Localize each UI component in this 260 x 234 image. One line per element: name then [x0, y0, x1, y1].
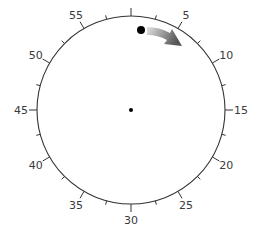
minor-tick [62, 41, 65, 44]
major-tick [80, 191, 84, 198]
minor-tick [62, 176, 65, 179]
major-tick [43, 157, 50, 161]
minute-label-55: 55 [69, 9, 83, 22]
minor-tick [106, 201, 107, 205]
minor-tick [222, 134, 226, 135]
minute-label-45: 45 [14, 104, 28, 117]
minor-tick [36, 134, 40, 135]
clock-dial-diagram: 510152025303540455055 [0, 0, 260, 234]
minute-label-5: 5 [183, 9, 190, 22]
minor-tick [106, 15, 107, 19]
minor-tick [222, 85, 226, 86]
minor-tick [36, 85, 40, 86]
minute-label-10: 10 [219, 49, 233, 62]
major-tick [178, 191, 182, 198]
minute-label-25: 25 [179, 199, 193, 212]
minute-label-30: 30 [124, 214, 138, 227]
minute-label-50: 50 [29, 49, 43, 62]
dial-labels: 510152025303540455055 [14, 9, 248, 227]
major-tick [43, 59, 50, 63]
minor-tick [197, 176, 200, 179]
minor-tick [155, 201, 156, 205]
minor-tick [197, 41, 200, 44]
major-tick [80, 22, 84, 29]
minute-label-35: 35 [69, 199, 83, 212]
center-dot [129, 108, 133, 112]
minute-label-40: 40 [29, 159, 43, 172]
ball-marker [137, 26, 145, 34]
minor-tick [155, 15, 156, 19]
major-tick [178, 22, 182, 29]
minute-label-15: 15 [234, 104, 248, 117]
clockwise-arrow-icon [147, 27, 182, 46]
minute-label-20: 20 [219, 159, 233, 172]
